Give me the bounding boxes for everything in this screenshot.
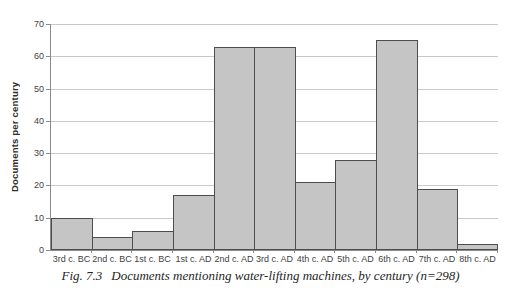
x-axis-tick (253, 250, 254, 253)
plot-area (50, 24, 498, 251)
caption-text: Documents mentioning water-lifting machi… (111, 268, 459, 283)
y-axis-tick (46, 153, 50, 154)
figure-caption: Fig. 7.3Documents mentioning water-lifti… (0, 268, 521, 284)
x-axis-labels: 3rd c. BC2nd c. BC1st c. BC1st c. AD2nd … (51, 254, 498, 266)
x-category-label: 3rd c. BC (51, 254, 92, 265)
x-category-label: 3rd c. AD (254, 254, 295, 265)
x-axis-tick (375, 250, 376, 253)
y-axis-tick-labels: 010203040506070 (0, 24, 44, 250)
y-axis-tick (46, 218, 50, 219)
x-axis-tick (91, 250, 92, 253)
bar (214, 47, 255, 250)
x-axis-tick (334, 250, 335, 253)
x-category-label: 7th c. AD (417, 254, 457, 265)
y-axis-tick (46, 250, 50, 251)
x-axis-tick (213, 250, 214, 253)
bar (295, 182, 336, 250)
x-category-label: 4th c. AD (295, 254, 335, 265)
bar (92, 237, 133, 250)
x-category-label: 2nd c. AD (214, 254, 254, 265)
y-axis-tick (46, 24, 50, 25)
x-category-label: 6th c. AD (376, 254, 417, 265)
y-axis-tick (46, 89, 50, 90)
y-axis-tick (46, 121, 50, 122)
y-tick-label: 10 (34, 213, 44, 223)
x-category-label: 1st c. BC (132, 254, 173, 265)
x-axis-tick (456, 250, 457, 253)
y-tick-label: 50 (34, 84, 44, 94)
x-axis-tick (497, 250, 498, 253)
x-axis-tick (294, 250, 295, 253)
bar (457, 244, 498, 250)
y-tick-label: 30 (34, 148, 44, 158)
bar (254, 47, 296, 250)
x-axis-tick (131, 250, 132, 253)
figure-number: Fig. 7.3 (61, 268, 102, 283)
y-tick-label: 20 (34, 180, 44, 190)
y-axis-tick (46, 56, 50, 57)
x-category-label: 1st c. AD (173, 254, 214, 265)
x-category-label: 2nd c. BC (92, 254, 132, 265)
y-axis-tick (46, 185, 50, 186)
x-axis-tick (172, 250, 173, 253)
x-category-label: 8th c. AD (457, 254, 498, 265)
y-tick-label: 60 (34, 51, 44, 61)
bar (173, 195, 215, 250)
x-category-label: 5th c. AD (335, 254, 376, 265)
bar (132, 231, 174, 250)
y-tick-label: 0 (39, 245, 44, 255)
bar (335, 160, 377, 250)
y-tick-label: 70 (34, 19, 44, 29)
bar (417, 189, 458, 250)
figure: Documents per century 010203040506070 3r… (0, 0, 521, 297)
y-tick-label: 40 (34, 116, 44, 126)
gridline (51, 24, 498, 25)
bar (376, 40, 418, 250)
bar (51, 218, 93, 250)
x-axis-tick (416, 250, 417, 253)
